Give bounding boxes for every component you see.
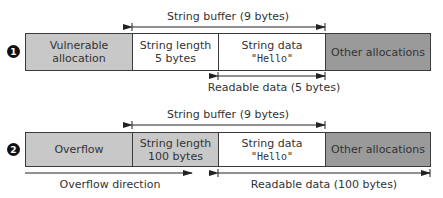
arrows-layer — [0, 0, 443, 198]
row2-string-data: String data "Hello" — [218, 132, 326, 167]
cell-value: "Hello" — [251, 150, 293, 163]
row2-string-length: String length 100 bytes — [132, 132, 219, 167]
cell-label: String length — [140, 39, 211, 52]
row2-buffer-arrow — [132, 121, 325, 129]
cell-label: String data — [241, 39, 302, 52]
cell-label: Overflow — [54, 143, 103, 156]
step-1-badge: 1 — [7, 45, 20, 58]
cell-label: String length — [140, 137, 211, 150]
row2-other-allocations: Other allocations — [325, 132, 431, 167]
row2-buffer-label: String buffer (9 bytes) — [167, 108, 289, 121]
cell-value: 5 bytes — [155, 52, 196, 65]
cell-value: "Hello" — [251, 52, 293, 65]
row2-readable-arrow — [218, 169, 430, 177]
row1-readable-label: Readable data (5 bytes) — [208, 81, 340, 94]
row2-overflow: Overflow — [25, 132, 133, 167]
row1-buffer-label: String buffer (9 bytes) — [167, 10, 289, 23]
cell-label: Other allocations — [331, 46, 425, 59]
cell-label: Vulnerable allocation — [26, 39, 132, 65]
row1-vulnerable-allocation: Vulnerable allocation — [25, 33, 133, 71]
cell-value: 100 bytes — [148, 150, 203, 163]
step-2-badge: 2 — [7, 143, 20, 156]
row1-buffer-arrow — [132, 23, 325, 31]
row1-other-allocations: Other allocations — [325, 33, 431, 71]
row1-string-length: String length 5 bytes — [132, 33, 219, 71]
row1-string-data: String data "Hello" — [218, 33, 326, 71]
cell-label: String data — [241, 137, 302, 150]
row1-readable-arrow — [218, 72, 325, 80]
overflow-direction-label: Overflow direction — [60, 178, 161, 191]
row2-readable-label: Readable data (100 bytes) — [251, 178, 397, 191]
cell-label: Other allocations — [331, 143, 425, 156]
